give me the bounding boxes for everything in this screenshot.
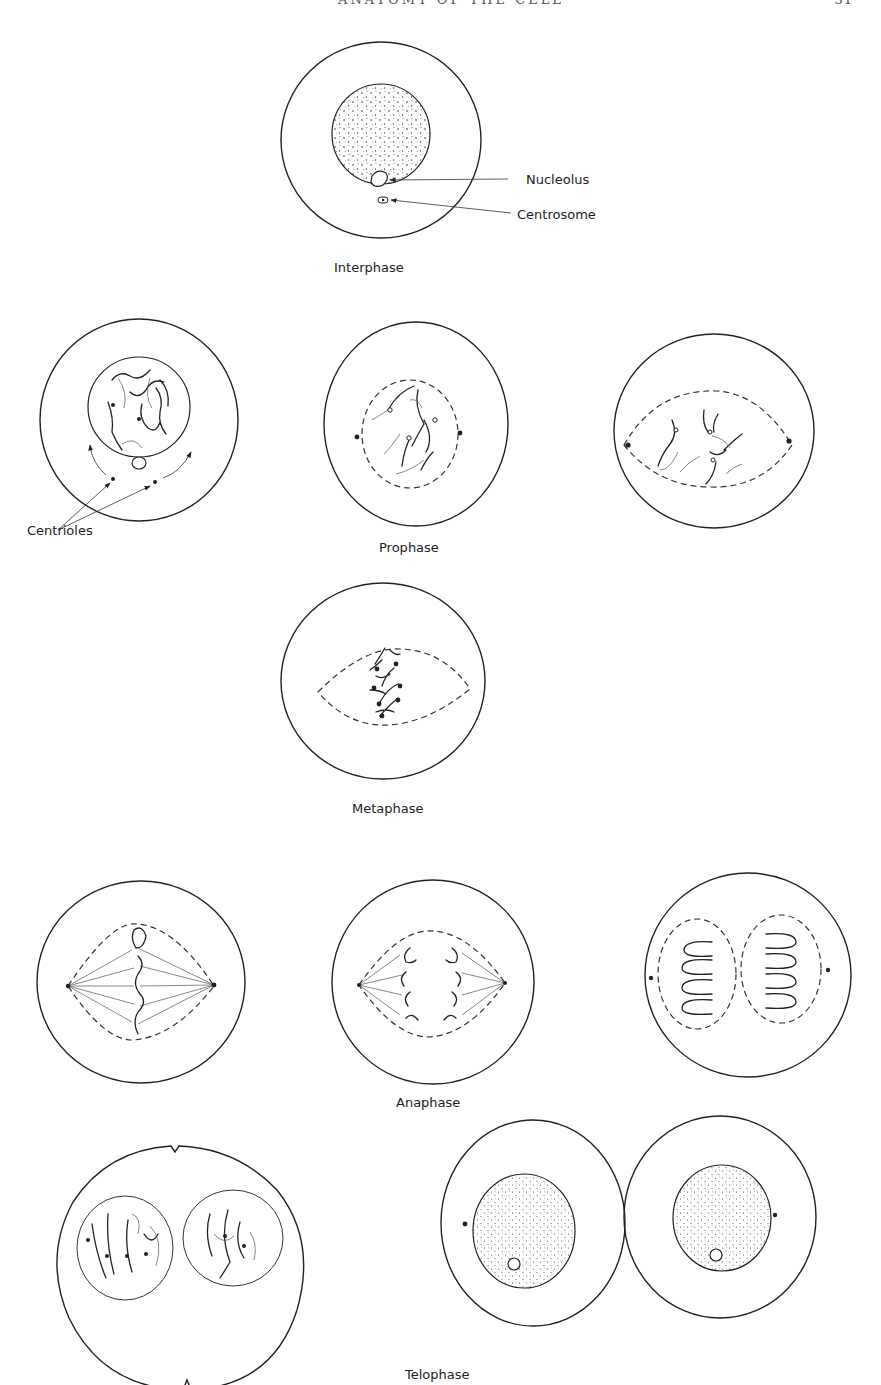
telophase-daughter-cell-left — [441, 1120, 625, 1326]
anaphase-cell-early — [37, 881, 245, 1083]
telophase-cell-cleaving — [57, 1146, 304, 1385]
interphase-cell — [281, 42, 511, 238]
interphase-label: Interphase — [334, 260, 404, 275]
centrosome-label: Centrosome — [517, 207, 596, 222]
prophase-cell-late — [614, 334, 814, 528]
metaphase-label: Metaphase — [352, 801, 424, 816]
prophase-cell-middle — [324, 322, 508, 526]
centrosome-leader — [391, 200, 511, 213]
anaphase-label: Anaphase — [396, 1095, 460, 1110]
telophase-label: Telophase — [405, 1367, 470, 1382]
anaphase-cell-late — [645, 873, 851, 1077]
metaphase-cell — [281, 583, 485, 779]
nucleus — [332, 84, 430, 184]
telophase-daughter-cell-right — [624, 1116, 816, 1318]
mitosis-diagram — [0, 0, 881, 1385]
prophase-label: Prophase — [379, 540, 439, 555]
anaphase-cell-middle — [332, 880, 534, 1084]
nucleolus-label: Nucleolus — [526, 172, 589, 187]
nucleolus-leader — [390, 179, 508, 180]
centrioles-label: Centrioles — [27, 523, 93, 538]
prophase-cell-early — [40, 319, 238, 530]
